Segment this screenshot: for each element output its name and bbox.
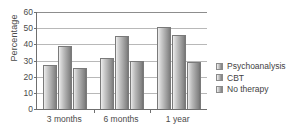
y-tick-label-60: 60 [24,7,33,17]
bar-psychoanalysis-3-months [43,65,57,109]
x-tick-label-6-months: 6 months [93,114,150,124]
legend-item-psychoanalysis[interactable]: Psychoanalysis [216,62,286,71]
y-tick-label-30: 30 [24,56,33,66]
legend-item-cbt[interactable]: CBT [216,74,286,83]
legend-swatch-no-therapy [216,86,223,93]
bar-cbt-1-year [172,35,186,109]
y-tick-mark-0 [34,109,37,110]
y-tick-label-20: 20 [24,72,33,82]
x-axis-labels: 3 months6 months1 year [36,114,206,124]
bar-no-therapy-1-year [187,62,201,109]
bar-psychoanalysis-6-months [100,58,114,109]
bar-no-therapy-3-months [73,68,87,109]
y-axis-title: Percentage [9,0,19,83]
legend-swatch-psychoanalysis [216,63,223,70]
legend-label: Psychoanalysis [227,62,286,71]
y-tick-label-40: 40 [24,39,33,49]
y-tick-label-0: 0 [28,104,33,114]
bar-psychoanalysis-1-year [157,27,171,109]
plot-area: 0102030405060 [36,12,207,110]
bar-group-6-months [94,12,151,109]
legend-label: CBT [227,74,244,83]
bars-layer [37,12,207,109]
legend-item-no-therapy[interactable]: No therapy [216,85,286,94]
x-tick-label-3-months: 3 months [36,114,93,124]
y-tick-label-10: 10 [24,88,33,98]
x-tick-label-1-year: 1 year [149,114,206,124]
y-tick-label-50: 50 [24,23,33,33]
bar-cbt-6-months [115,36,129,109]
x-axis-group-separator [94,109,95,113]
bar-chart: Percentage 0102030405060 3 months6 month… [0,0,298,137]
chart-legend: PsychoanalysisCBTNo therapy [216,62,286,94]
bar-group-3-months [37,12,94,109]
legend-label: No therapy [227,85,269,94]
bar-no-therapy-6-months [130,61,144,110]
bar-cbt-3-months [58,46,72,109]
legend-swatch-cbt [216,74,223,81]
x-axis-group-separator [150,109,151,113]
bar-group-1-year [150,12,207,109]
